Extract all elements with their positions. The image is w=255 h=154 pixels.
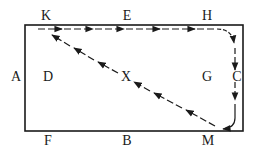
label-d: D — [43, 70, 53, 84]
diagonal-path — [52, 35, 215, 126]
label-c: C — [232, 70, 241, 84]
label-e: E — [123, 9, 132, 23]
label-b: B — [122, 134, 131, 148]
label-g: G — [202, 70, 212, 84]
label-a: A — [11, 70, 21, 84]
label-h: H — [202, 9, 212, 23]
label-f: F — [44, 134, 52, 148]
label-k: K — [41, 9, 51, 23]
diagram: K E H A D X G C F B M — [0, 0, 255, 154]
label-x: X — [121, 70, 131, 84]
label-m: M — [202, 134, 214, 148]
